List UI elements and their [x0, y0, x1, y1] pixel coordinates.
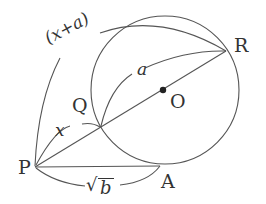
brace-b-right: [120, 166, 160, 185]
point-label-p: P: [18, 158, 31, 177]
length-label-a: a: [137, 61, 147, 78]
brace-x-upper: [82, 123, 100, 127]
brace-a-lower: [101, 74, 132, 126]
brace-xa-lower: [35, 58, 60, 166]
brace-b-left: [36, 168, 85, 186]
point-label-a: A: [161, 172, 175, 191]
brace-a-upper: [145, 51, 226, 68]
geometry-figure: P Q O R A x a (x+a) √ b: [0, 0, 266, 204]
point-label-r: R: [234, 36, 248, 55]
length-label-x: x: [55, 122, 65, 139]
point-label-q: Q: [72, 96, 88, 115]
secant-prq: [35, 51, 226, 167]
point-label-o: O: [170, 92, 186, 111]
tangent-pa: [35, 166, 160, 167]
diagram-canvas: [0, 0, 266, 204]
center-dot-o: [160, 87, 166, 93]
length-label-b: b: [98, 178, 114, 197]
sqrt-symbol: √: [86, 176, 97, 194]
